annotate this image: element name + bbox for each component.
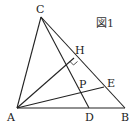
label-C: C (36, 3, 44, 16)
segment-CA (17, 17, 41, 108)
label-B: B (121, 111, 129, 124)
label-E: E (107, 77, 115, 90)
geometry-figure: C H P E A D B 図1 (0, 0, 134, 129)
segment-BC (41, 17, 125, 108)
figure-caption: 図1 (96, 17, 114, 30)
segment-AH (17, 58, 74, 108)
label-H: H (75, 44, 85, 57)
right-angle-mark (70, 62, 78, 66)
label-P: P (79, 78, 87, 91)
label-D: D (85, 111, 94, 124)
triangle-diagram: C H P E A D B 図1 (0, 0, 134, 129)
segment-AE (17, 87, 104, 108)
segment-CD (41, 17, 89, 108)
label-A: A (6, 111, 16, 124)
